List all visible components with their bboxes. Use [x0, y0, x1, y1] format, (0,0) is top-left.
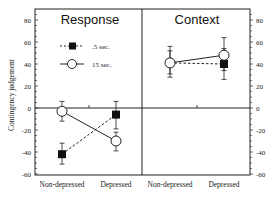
legend: .5 sec. 15 sec.	[60, 43, 112, 70]
y-tick-label-right: 60	[256, 39, 264, 47]
open-circle-marker-icon	[165, 58, 175, 68]
open-circle-marker-icon	[111, 136, 121, 146]
y-tick-label-right: -40	[256, 149, 266, 157]
series-05-line	[62, 115, 116, 155]
y-tick-label-left: 80	[24, 17, 32, 25]
category-label-nondepressed-1: Non-depressed	[40, 180, 85, 189]
filled-square-marker-icon	[220, 60, 228, 68]
legend-label-15: 15 sec.	[92, 61, 112, 69]
open-circle-marker-icon	[219, 50, 229, 60]
left-axis-ticks: -60-40-20020406080	[22, 15, 38, 179]
filled-square-marker-icon	[58, 150, 66, 158]
category-label-nondepressed-2: Non-depressed	[148, 180, 193, 189]
series-15-line	[170, 55, 224, 63]
y-tick-label-right: 0	[256, 105, 260, 113]
y-tick-label-left: 0	[28, 105, 32, 113]
data-series	[57, 38, 229, 165]
y-tick-label-left: 40	[24, 61, 32, 69]
open-circle-marker-icon	[57, 106, 67, 116]
category-label-depressed-2: Depressed	[208, 180, 239, 189]
category-label-depressed-1: Depressed	[100, 180, 131, 189]
series-15-line	[62, 111, 116, 141]
legend-open-circle-icon	[68, 60, 77, 69]
filled-square-marker-icon	[112, 111, 120, 119]
right-axis-ticks: -60-40-20020406080	[250, 15, 266, 179]
legend-filled-square-icon	[69, 43, 76, 50]
y-tick-label-right: 20	[256, 83, 264, 91]
y-tick-label-right: -20	[256, 127, 266, 135]
y-tick-label-right: 40	[256, 61, 264, 69]
y-tick-label-left: -40	[22, 149, 32, 157]
contingency-chart: -60-40-20020406080 -60-40-20020406080 Re…	[0, 0, 280, 199]
series-05-line	[170, 63, 224, 64]
panel-title-context: Context	[175, 12, 220, 27]
legend-label-05: .5 sec.	[92, 43, 110, 51]
y-tick-label-right: 80	[256, 17, 264, 25]
y-tick-label-left: 60	[24, 39, 32, 47]
panel-title-response: Response	[61, 12, 120, 27]
y-tick-label-left: -60	[22, 171, 32, 179]
y-tick-label-left: 20	[24, 83, 32, 91]
y-tick-label-right: -60	[256, 171, 266, 179]
y-tick-label-left: -20	[22, 127, 32, 135]
y-axis-label: Contingency judgement	[7, 58, 16, 131]
